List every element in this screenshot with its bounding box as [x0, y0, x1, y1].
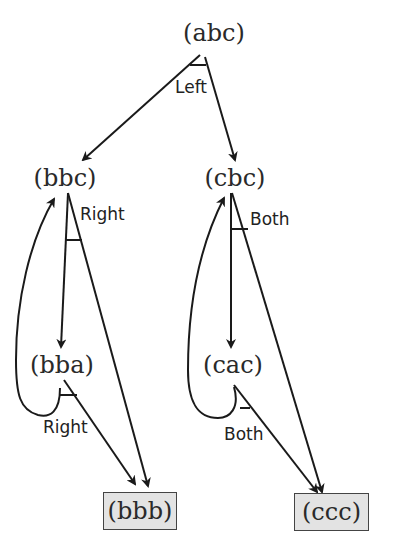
edge-bbc-bbb — [68, 193, 148, 486]
edge-abc-bbc — [83, 55, 200, 160]
node-cac: (cac) — [203, 351, 263, 379]
terminal-node-ccc: (ccc) — [294, 493, 369, 531]
edge-label-right-bbc: Right — [80, 204, 125, 224]
node-bba: (bba) — [30, 351, 94, 379]
state-transition-diagram: (abc) (bbc) (cbc) (bba) (cac) (bbb) (ccc… — [0, 0, 396, 551]
edge-cbc-ccc — [232, 193, 322, 492]
edge-label-both-cac: Both — [224, 424, 264, 444]
edge-cac-cbc-loop — [188, 198, 236, 418]
edge-label-both-cbc: Both — [250, 209, 290, 229]
terminal-node-bbb: (bbb) — [103, 492, 177, 530]
edge-abc-cbc — [205, 57, 235, 160]
edge-bba-bbc-loop — [16, 199, 60, 416]
edge-label-left: Left — [175, 77, 207, 97]
node-bbc: (bbc) — [34, 164, 97, 192]
node-abc: (abc) — [183, 19, 245, 47]
node-cbc: (cbc) — [205, 164, 266, 192]
edge-bbc-bba — [61, 193, 68, 347]
edge-label-right-bba: Right — [43, 417, 88, 437]
